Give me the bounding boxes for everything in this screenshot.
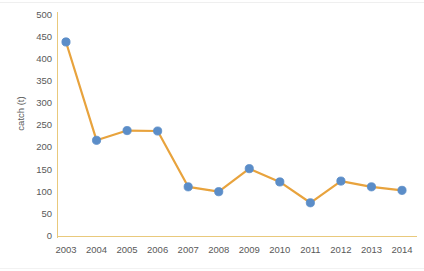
- data-point: [306, 199, 314, 207]
- data-point: [92, 136, 100, 144]
- x-axis-tick-labels: 2003200420052006200720082009201020112012…: [58, 245, 416, 261]
- series-line-catch: [66, 42, 402, 203]
- data-point: [123, 126, 131, 134]
- data-point: [276, 178, 284, 186]
- data-point: [215, 188, 223, 196]
- data-series-layer: [0, 0, 424, 271]
- data-point: [154, 127, 162, 135]
- data-point: [337, 177, 345, 185]
- chart-container: catch (t) 050100150200250300350400450500…: [0, 0, 424, 271]
- data-point: [184, 183, 192, 191]
- data-point: [62, 38, 70, 46]
- x-tick-label: 2014: [382, 245, 422, 255]
- data-point: [367, 183, 375, 191]
- data-point: [398, 186, 406, 194]
- data-point: [245, 165, 253, 173]
